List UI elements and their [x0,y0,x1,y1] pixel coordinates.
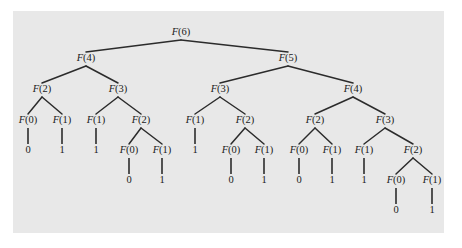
function-argument: (2) [312,114,325,126]
figure-root: F(6)F(4)F(5)F(2)F(3)F(3)F(4)F(0)F(1)F(1)… [0,0,462,248]
function-argument: (2) [138,114,151,126]
call-node-label: F(3) [108,83,128,95]
base-case-value: 1 [59,144,64,155]
call-node-label: F(1) [254,144,274,156]
tree-edge [315,128,332,144]
function-argument: (3) [382,114,395,126]
call-node-label: F(0) [221,144,241,156]
tree-edge [231,128,245,144]
call-node-label: F(0) [119,144,139,156]
base-case-value: 0 [25,144,30,155]
base-case-value: 1 [192,144,197,155]
call-node-label: F(0) [18,114,38,126]
base-case-value: 1 [429,204,434,215]
function-argument: (3) [217,83,230,95]
call-node-label: F(1) [354,144,374,156]
tree-edge [96,97,118,114]
base-case-value: 0 [228,174,233,185]
call-node-label: F(1) [86,114,106,126]
tree-edge [118,97,141,114]
function-argument: (1) [159,144,172,156]
function-argument: (2) [410,144,423,156]
base-case-value: 0 [296,174,301,185]
call-node-label: F(0) [386,174,406,186]
call-node-label: F(1) [422,174,442,186]
function-argument: (0) [228,144,241,156]
call-node-label: F(3) [375,114,395,126]
tree-edge [141,128,162,144]
tree-edge [288,66,353,83]
function-argument: (1) [261,144,274,156]
call-node-label: F(6) [171,26,191,38]
base-case-value: 1 [361,174,366,185]
call-node-label: F(2) [32,83,52,95]
tree-edge [129,128,141,144]
call-node-label: F(2) [235,114,255,126]
function-argument: (2) [242,114,255,126]
tree-edge [413,158,432,174]
tree-edge [353,97,385,114]
function-argument: (3) [115,83,128,95]
function-argument: (5) [285,52,298,64]
base-case-value: 1 [159,174,164,185]
tree-edge [315,97,353,114]
base-case-value: 1 [93,144,98,155]
tree-edge [220,97,245,114]
node-layer: F(6)F(4)F(5)F(2)F(3)F(3)F(4)F(0)F(1)F(1)… [18,26,442,215]
function-argument: (1) [361,144,374,156]
call-node-label: F(1) [152,144,172,156]
tree-edge [195,97,220,114]
call-node-label: F(4) [76,52,96,64]
call-node-label: F(3) [210,83,230,95]
function-argument: (0) [296,144,309,156]
base-case-value: 0 [393,204,398,215]
call-node-label: F(0) [289,144,309,156]
tree-edge [86,40,181,52]
tree-edge [364,128,385,144]
function-argument: (1) [59,114,72,126]
tree-edge [181,40,288,52]
tree-edge [385,128,413,144]
function-argument: (1) [329,144,342,156]
call-node-label: F(2) [305,114,325,126]
call-node-label: F(5) [278,52,298,64]
tree-edge [28,97,42,114]
call-node-label: F(1) [322,144,342,156]
function-argument: (0) [393,174,406,186]
base-case-value: 0 [126,174,131,185]
function-argument: (6) [178,26,191,38]
base-case-value: 1 [261,174,266,185]
call-node-label: F(1) [185,114,205,126]
function-argument: (0) [25,114,38,126]
tree-edge [86,66,118,83]
tree-edge [42,66,86,83]
function-argument: (1) [192,114,205,126]
tree-edge [299,128,315,144]
tree-edge [396,158,413,174]
function-argument: (0) [126,144,139,156]
tree-edge [42,97,62,114]
function-argument: (2) [39,83,52,95]
function-argument: (4) [83,52,96,64]
call-node-label: F(4) [343,83,363,95]
function-argument: (4) [350,83,363,95]
function-argument: (1) [93,114,106,126]
call-node-label: F(1) [52,114,72,126]
base-case-value: 1 [329,174,334,185]
tree-edge [220,66,288,83]
tree-edge [245,128,264,144]
recursion-tree-svg: F(6)F(4)F(5)F(2)F(3)F(3)F(4)F(0)F(1)F(1)… [0,0,462,248]
function-argument: (1) [429,174,442,186]
call-node-label: F(2) [403,144,423,156]
call-node-label: F(2) [131,114,151,126]
